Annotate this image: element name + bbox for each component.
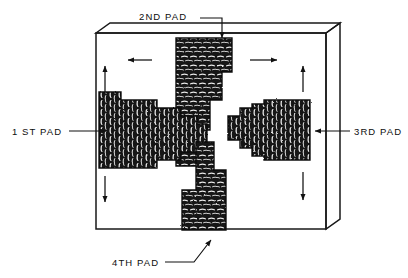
- label-1st-pad: 1 ST PAD: [12, 126, 62, 137]
- label-3rd-pad: 3RD PAD: [354, 126, 402, 137]
- label-4th-pad: 4TH PAD: [112, 257, 159, 268]
- label-2nd-pad: 2ND PAD: [139, 11, 187, 22]
- weld-pad-sequence-diagram: 1 ST PAD 2ND PAD 3RD PAD 4TH PAD: [0, 0, 408, 278]
